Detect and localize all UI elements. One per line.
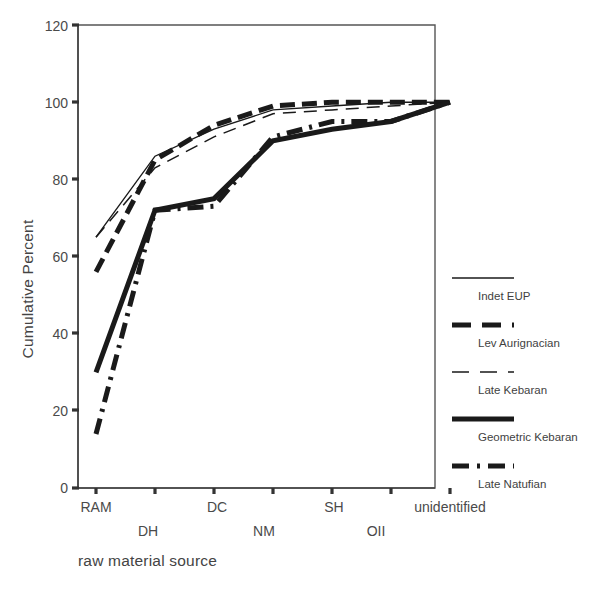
legend-label-late-kebaran: Late Kebaran xyxy=(478,384,547,396)
axis-frame xyxy=(78,25,435,488)
legend-entry-late-kebaran: Late Kebaran xyxy=(452,362,594,409)
legend-entry-lev-aurignacian: Lev Aurignacian xyxy=(452,315,594,362)
legend-entry-indet-eup: Indet EUP xyxy=(452,268,594,315)
series-line-late-natufian xyxy=(96,102,450,434)
chart-figure: Cumulative Percent raw material source 1… xyxy=(0,0,594,594)
legend-label-late-natufian: Late Natufian xyxy=(478,478,546,490)
legend-sample-thin-dashed xyxy=(452,368,520,376)
x-axis-ticks xyxy=(96,488,450,494)
legend-entry-geometric-kebaran: Geometric Kebaran xyxy=(452,409,594,456)
legend-sample-dash-dot xyxy=(452,462,520,470)
legend-entry-late-natufian: Late Natufian xyxy=(452,456,594,503)
legend-label-lev-aurignacian: Lev Aurignacian xyxy=(478,337,560,349)
chart-legend: Indet EUP Lev Aurignacian Late Kebaran G… xyxy=(452,268,594,503)
legend-label-indet-eup: Indet EUP xyxy=(478,290,530,302)
series-line-lev-aurignacian xyxy=(96,102,450,272)
legend-label-geometric-kebaran: Geometric Kebaran xyxy=(478,431,578,443)
data-series-group xyxy=(96,102,450,434)
legend-sample-thick-solid xyxy=(452,415,520,423)
legend-sample-thin-solid xyxy=(452,274,520,282)
legend-sample-thick-dashed xyxy=(452,321,520,329)
